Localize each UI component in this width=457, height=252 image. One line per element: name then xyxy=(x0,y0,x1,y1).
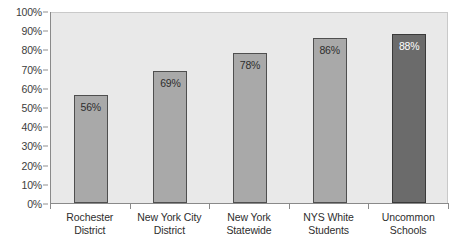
x-axis-category-line: Schools xyxy=(368,224,448,237)
x-axis-category-line: Rochester xyxy=(50,211,130,224)
x-axis-category-line: District xyxy=(130,224,210,237)
y-axis-tick-mark xyxy=(43,12,48,13)
y-axis-tick-label: 90% xyxy=(22,25,42,37)
y-axis-tick-mark xyxy=(43,108,48,109)
x-axis-category-label: NYS WhiteStudents xyxy=(289,211,369,237)
y-axis-tick-mark xyxy=(43,146,48,147)
x-axis-category-line: New York xyxy=(209,211,289,224)
bar-slot: 86% xyxy=(290,13,370,203)
bar[interactable]: 69% xyxy=(153,71,187,203)
x-axis-category-line: Uncommon xyxy=(368,211,448,224)
bar-value-label: 88% xyxy=(393,40,425,52)
y-axis-line xyxy=(50,12,51,204)
y-axis-tick-mark xyxy=(43,50,48,51)
x-axis-tick-mark xyxy=(368,204,369,209)
y-axis-tick-mark xyxy=(43,184,48,185)
bar-chart: 0%10%20%30%40%50%60%70%80%90%100% 56%69%… xyxy=(0,0,457,252)
x-axis-category-line: District xyxy=(50,224,130,237)
y-axis-tick-mark xyxy=(43,165,48,166)
x-axis-category-label: New YorkStatewide xyxy=(209,211,289,237)
bar-value-label: 56% xyxy=(75,101,107,113)
x-axis-tick-mark xyxy=(448,204,449,209)
y-axis-tick-label: 60% xyxy=(22,83,42,95)
bar-slot: 78% xyxy=(210,13,290,203)
chart-title-remnant xyxy=(0,0,457,6)
bars-layer: 56%69%78%86%88% xyxy=(51,13,447,203)
y-axis-tick-label: 10% xyxy=(22,179,42,191)
x-axis-category-line: New York City xyxy=(130,211,210,224)
bar-value-label: 69% xyxy=(154,77,186,89)
x-axis-category-line: Statewide xyxy=(209,224,289,237)
bar[interactable]: 88% xyxy=(392,34,426,203)
y-axis-tick-mark xyxy=(43,31,48,32)
bar-slot: 56% xyxy=(51,13,131,203)
x-axis-category-label: New York CityDistrict xyxy=(130,211,210,237)
bar[interactable]: 86% xyxy=(313,38,347,203)
bar-slot: 88% xyxy=(369,13,449,203)
x-axis-tick-mark xyxy=(289,204,290,209)
x-axis-category-label: UncommonSchools xyxy=(368,211,448,237)
y-axis-tick-label: 70% xyxy=(22,64,42,76)
y-axis-tick-label: 30% xyxy=(22,140,42,152)
x-axis-tick-mark xyxy=(50,204,51,209)
y-axis-tick-label: 0% xyxy=(27,198,42,210)
y-axis-tick-label: 100% xyxy=(16,6,42,18)
y-axis-tick-mark xyxy=(43,127,48,128)
y-axis-tick-label: 20% xyxy=(22,160,42,172)
y-axis-tick-mark xyxy=(43,69,48,70)
bar-slot: 69% xyxy=(131,13,211,203)
x-axis-category-line: Students xyxy=(289,224,369,237)
y-axis: 0%10%20%30%40%50%60%70%80%90%100% xyxy=(0,12,50,204)
plot-area: 56%69%78%86%88% xyxy=(50,12,448,204)
y-axis-tick-mark xyxy=(43,88,48,89)
y-axis-tick-label: 80% xyxy=(22,44,42,56)
x-axis-tick-mark xyxy=(209,204,210,209)
bar-value-label: 86% xyxy=(314,44,346,56)
y-axis-tick-label: 50% xyxy=(22,102,42,114)
x-axis-category-label: RochesterDistrict xyxy=(50,211,130,237)
x-axis: RochesterDistrictNew York CityDistrictNe… xyxy=(50,204,448,252)
bar[interactable]: 78% xyxy=(233,53,267,203)
bar-value-label: 78% xyxy=(234,59,266,71)
x-axis-tick-mark xyxy=(130,204,131,209)
x-axis-category-line: NYS White xyxy=(289,211,369,224)
y-axis-tick-label: 40% xyxy=(22,121,42,133)
y-axis-tick-mark xyxy=(43,204,48,205)
bar[interactable]: 56% xyxy=(74,95,108,203)
